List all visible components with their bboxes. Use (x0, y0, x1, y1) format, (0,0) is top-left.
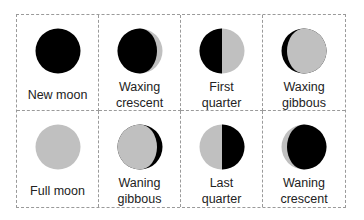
phase-label: Waning crescent (263, 174, 345, 208)
phase-label: Last quarter (181, 174, 262, 208)
phase-label: Waxing gibbous (263, 78, 345, 112)
waning-gibbous-icon (117, 124, 163, 170)
moon-phases-grid: New moon Waxing crescent First quarter (16, 14, 346, 208)
waning-crescent-icon (281, 124, 327, 170)
first-quarter-icon (199, 28, 245, 74)
phase-label-line1: Waning (283, 175, 325, 191)
phase-label-line1: Waning (119, 175, 161, 191)
phase-card-first-quarter: First quarter (181, 15, 263, 111)
phase-label: Waxing crescent (99, 78, 180, 112)
phase-label-line2: quarter (202, 191, 242, 207)
phase-card-waning-crescent: Waning crescent (263, 111, 345, 207)
phase-label-line1: Waxing (119, 79, 160, 95)
last-quarter-icon (199, 124, 245, 170)
waxing-crescent-icon (117, 28, 163, 74)
waxing-gibbous-icon (281, 28, 327, 74)
phase-label: Full moon (17, 174, 98, 208)
phase-label: First quarter (181, 78, 262, 112)
phase-label: New moon (17, 78, 98, 112)
phase-label-line2: quarter (202, 95, 242, 111)
phase-card-waning-gibbous: Waning gibbous (99, 111, 181, 207)
new-moon-icon (35, 28, 81, 74)
phase-label-line1: New moon (28, 87, 88, 103)
phase-label-line2: crescent (116, 95, 163, 111)
phase-card-new-moon: New moon (17, 15, 99, 111)
phase-label-line2: gibbous (118, 191, 162, 207)
phase-card-last-quarter: Last quarter (181, 111, 263, 207)
phase-card-waxing-gibbous: Waxing gibbous (263, 15, 345, 111)
phase-label-line2: crescent (280, 191, 327, 207)
phase-label-line2: gibbous (282, 95, 326, 111)
phase-label-line1: Waxing (283, 79, 324, 95)
full-moon-icon (35, 124, 81, 170)
phase-label-line1: Full moon (30, 183, 85, 199)
phase-label-line1: First (209, 79, 233, 95)
phase-label: Waning gibbous (99, 174, 180, 208)
phase-card-full-moon: Full moon (17, 111, 99, 207)
phase-label-line1: Last (210, 175, 234, 191)
phase-card-waxing-crescent: Waxing crescent (99, 15, 181, 111)
